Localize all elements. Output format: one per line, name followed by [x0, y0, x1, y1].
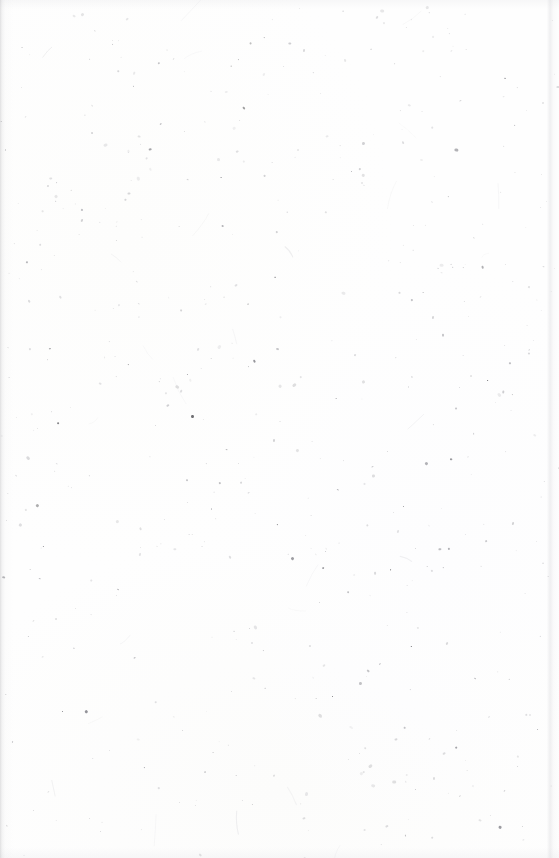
scanned-page: This page is blank. [0, 0, 559, 858]
paper-fiber-layer [0, 0, 559, 858]
scanner-speckle-layer [0, 0, 559, 858]
